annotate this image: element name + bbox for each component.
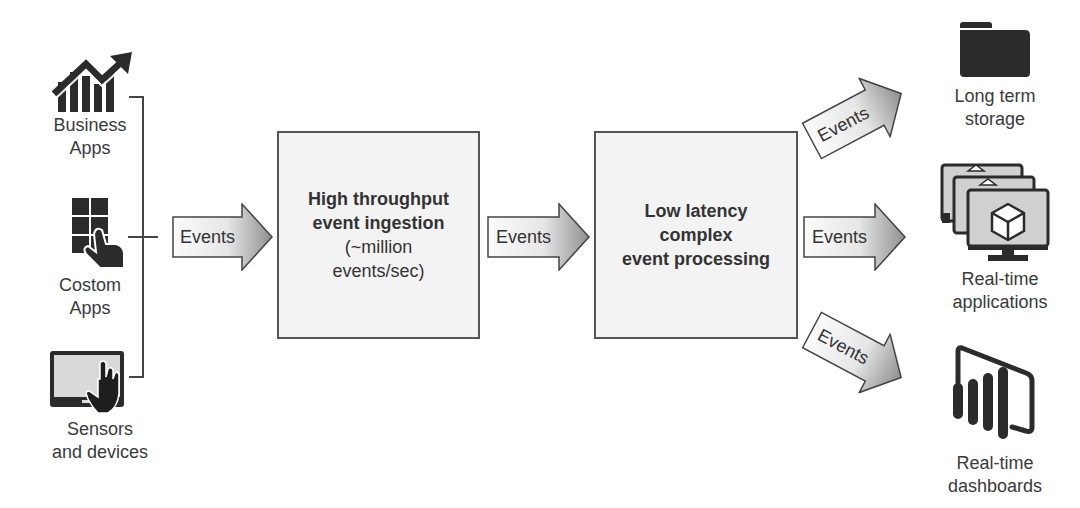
dashboards-label-line2: dashboards <box>930 475 1060 498</box>
applications-label-line1: Real-time <box>935 268 1065 291</box>
sensors-label-line2: and devices <box>30 441 170 464</box>
applications-label-line2: applications <box>935 291 1065 314</box>
events-arrow-to-applications: Events <box>803 203 907 271</box>
processing-title-line1: Low latency <box>644 199 747 223</box>
events-arrow-to-ingestion: Events <box>172 203 274 271</box>
dashboards-label-line1: Real-time <box>930 452 1060 475</box>
events-arrow-to-processing: Events <box>487 203 591 271</box>
events-arrow-label: Events <box>180 227 235 248</box>
sensors-label-line1: Sensors <box>30 418 170 441</box>
power-bi-dashboard-icon <box>950 345 1040 445</box>
events-arrow-to-storage: Events <box>795 63 919 172</box>
ingestion-box: High throughput event ingestion (~millio… <box>277 131 480 339</box>
ingestion-title-line1: High throughput <box>308 187 449 211</box>
storage-label: Long term storage <box>935 85 1055 131</box>
stacked-monitors-icon <box>940 163 1052 263</box>
events-arrow-label: Events <box>496 227 551 248</box>
applications-label: Real-time applications <box>935 268 1065 314</box>
dashboards-label: Real-time dashboards <box>930 452 1060 498</box>
processing-title-line2: complex <box>659 223 732 247</box>
storage-label-line2: storage <box>935 108 1055 131</box>
ingestion-sub-line1: (~million <box>345 235 413 259</box>
events-arrow-label: Events <box>812 227 867 248</box>
processing-box: Low latency complex event processing <box>594 131 798 339</box>
folder-icon <box>959 21 1031 79</box>
ingestion-sub-line2: events/sec) <box>332 259 424 283</box>
processing-title-line3: event processing <box>622 247 770 271</box>
storage-label-line1: Long term <box>935 85 1055 108</box>
sensors-label: Sensors and devices <box>30 418 170 464</box>
ingestion-title-line2: event ingestion <box>312 211 444 235</box>
source-bracket <box>0 0 170 400</box>
events-arrow-to-dashboards: Events <box>795 300 919 409</box>
